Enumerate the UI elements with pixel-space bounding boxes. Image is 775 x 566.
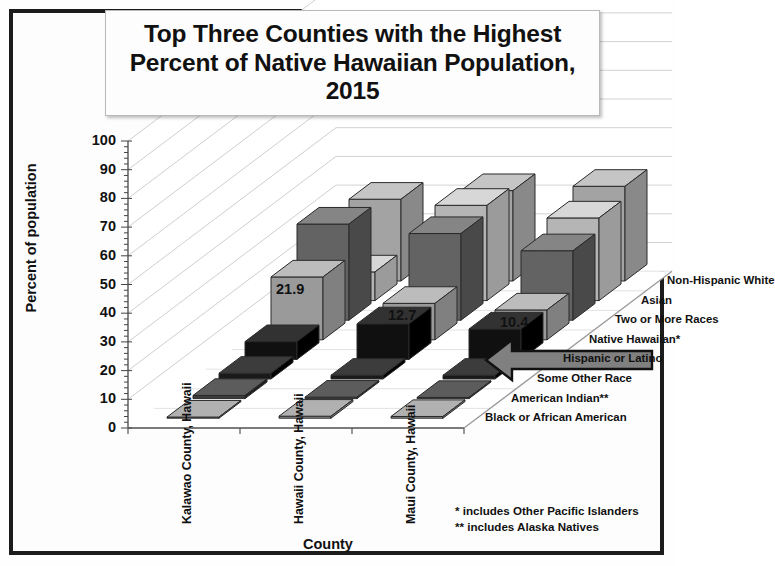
y-axis-title: Percent of population — [23, 158, 39, 318]
series-label-7: Asian — [641, 294, 672, 306]
y-tick-80: 80 — [76, 189, 116, 205]
value-label-21.9: 21.9 — [276, 281, 304, 297]
y-tick-40: 40 — [76, 304, 116, 320]
y-tick-0: 0 — [76, 419, 116, 435]
series-label-8: Non-Hispanic White — [667, 274, 775, 286]
y-tick-60: 60 — [76, 247, 116, 263]
y-tick-100: 100 — [76, 132, 116, 148]
series-label-5: Native Hawaiian* — [589, 333, 680, 345]
page-title: Top Three Counties with the Highest Perc… — [106, 20, 599, 105]
series-label-6: Two or More Races — [615, 313, 719, 325]
x-tick-3: Maui County, Hawaii — [404, 404, 418, 524]
y-tick-20: 20 — [76, 362, 116, 378]
y-tick-50: 50 — [76, 276, 116, 292]
footnote-line-1: * includes Other Pacific Islanders — [455, 503, 639, 519]
footnotes: * includes Other Pacific Islanders ** in… — [455, 503, 639, 534]
chart-title-box: Top Three Counties with the Highest Perc… — [105, 10, 600, 116]
x-tick-1: Kalawao County, Hawaii — [180, 382, 194, 524]
x-axis-title: County — [303, 536, 353, 552]
x-tick-2: Hawaii County, Hawaii — [292, 393, 306, 524]
series-label-1: Black or African American — [485, 411, 627, 423]
series-label-3: Some Other Race — [537, 372, 632, 384]
footnote-line-2: ** includes Alaska Natives — [455, 519, 639, 535]
y-tick-90: 90 — [76, 161, 116, 177]
y-tick-10: 10 — [76, 390, 116, 406]
y-tick-70: 70 — [76, 218, 116, 234]
series-label-4: Hispanic or Latino — [563, 352, 662, 364]
value-label-10.4: 10.4 — [500, 314, 528, 330]
y-tick-30: 30 — [76, 333, 116, 349]
series-label-2: American Indian** — [511, 392, 608, 404]
value-label-12.7: 12.7 — [388, 307, 416, 323]
